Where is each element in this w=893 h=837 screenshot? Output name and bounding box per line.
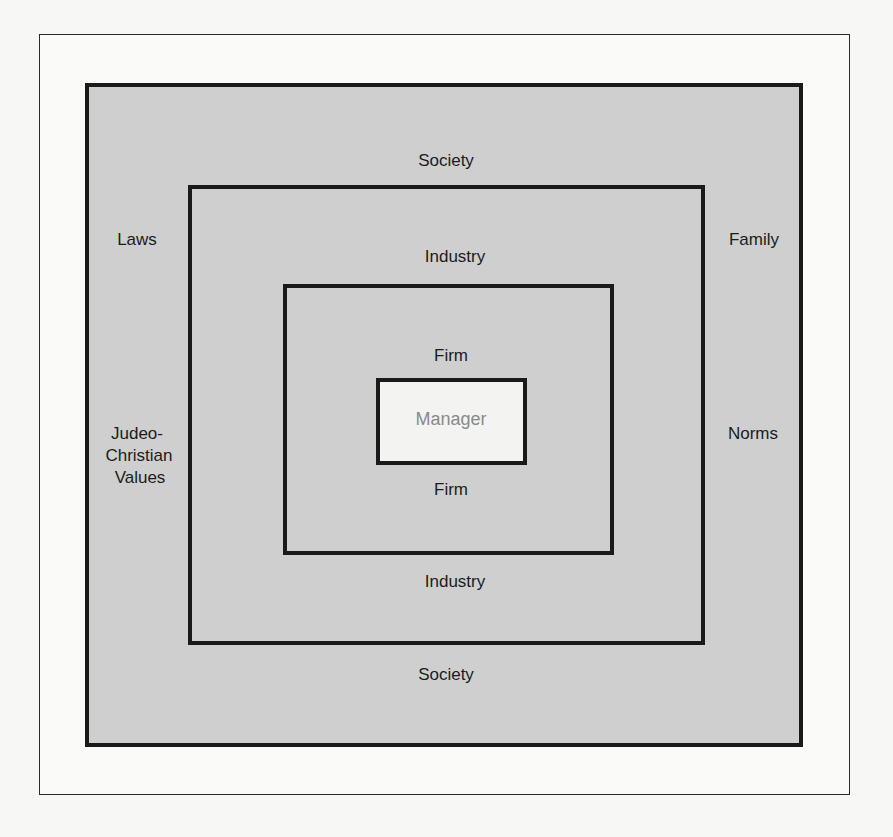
- firm-top-label: Firm: [434, 345, 468, 367]
- society-bottom-label: Society: [418, 664, 474, 686]
- society-top-label: Society: [418, 150, 474, 172]
- family-label: Family: [729, 229, 779, 251]
- christian-label: Christian: [105, 445, 172, 467]
- norms-label: Norms: [728, 423, 778, 445]
- values-label: Values: [115, 467, 166, 489]
- manager-label: Manager: [415, 408, 486, 430]
- industry-bottom-label: Industry: [425, 571, 485, 593]
- industry-top-label: Industry: [425, 246, 485, 268]
- judeo-label: Judeo-: [111, 423, 163, 445]
- firm-bottom-label: Firm: [434, 479, 468, 501]
- laws-label: Laws: [117, 229, 157, 251]
